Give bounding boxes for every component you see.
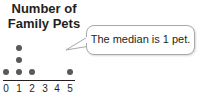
dot-2-1 — [29, 69, 35, 75]
tick-4: 4 — [52, 83, 62, 94]
tick-5: 5 — [65, 83, 75, 94]
tick-2: 2 — [27, 83, 37, 94]
dot-5-1 — [67, 69, 73, 75]
x-axis — [3, 80, 75, 81]
tick-1: 1 — [14, 83, 24, 94]
dot-0-1 — [3, 69, 9, 75]
dot-1-2 — [16, 57, 22, 63]
tick-3: 3 — [40, 83, 50, 94]
dot-1-3 — [16, 45, 22, 51]
dot-1-1 — [16, 69, 22, 75]
tick-0: 0 — [1, 83, 11, 94]
